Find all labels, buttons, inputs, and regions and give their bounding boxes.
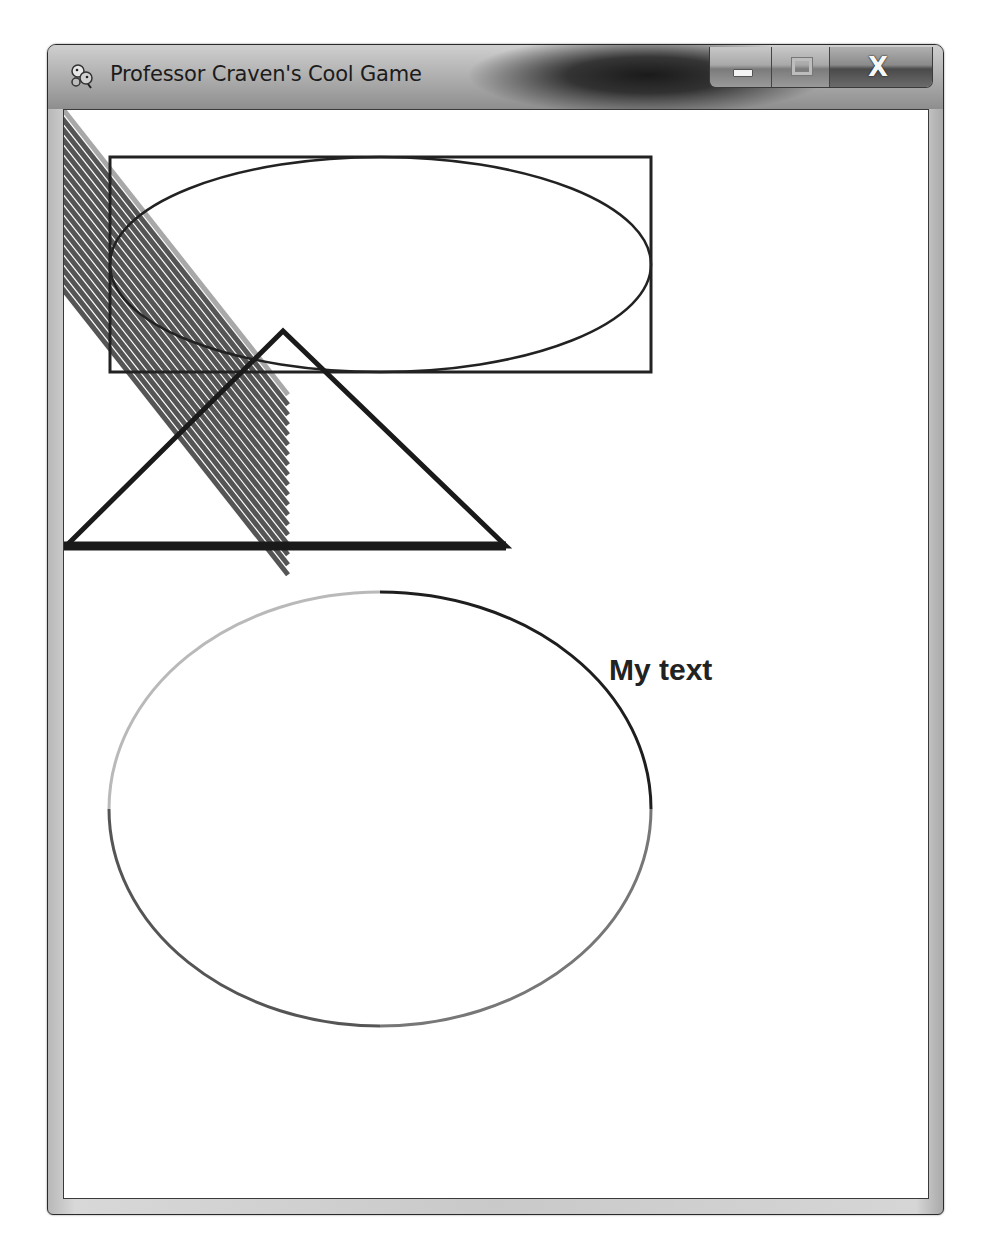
- arc-upper-right: [380, 592, 651, 809]
- pygame-snake-icon: [68, 62, 96, 90]
- game-window: Professor Craven's Cool Game X: [47, 44, 944, 1215]
- arc-lower-left: [109, 809, 380, 1026]
- maximize-icon: [792, 58, 812, 75]
- maximize-button[interactable]: [772, 47, 830, 87]
- minimize-button[interactable]: [710, 47, 772, 87]
- game-canvas[interactable]: [64, 110, 929, 1199]
- diagonal-hatch-lines: [64, 110, 288, 575]
- arc-upper-left: [109, 592, 380, 809]
- arc-lower-right: [380, 809, 651, 1026]
- window-title: Professor Craven's Cool Game: [110, 62, 422, 86]
- close-icon: X: [868, 51, 888, 83]
- canvas-text-label: My text: [609, 653, 712, 687]
- title-bar[interactable]: Professor Craven's Cool Game X: [48, 45, 943, 109]
- minimize-icon: [733, 69, 753, 77]
- game-canvas-area[interactable]: My text: [63, 109, 929, 1199]
- hatch-line: [64, 198, 288, 485]
- close-button[interactable]: X: [830, 47, 932, 87]
- caption-buttons: X: [709, 47, 933, 88]
